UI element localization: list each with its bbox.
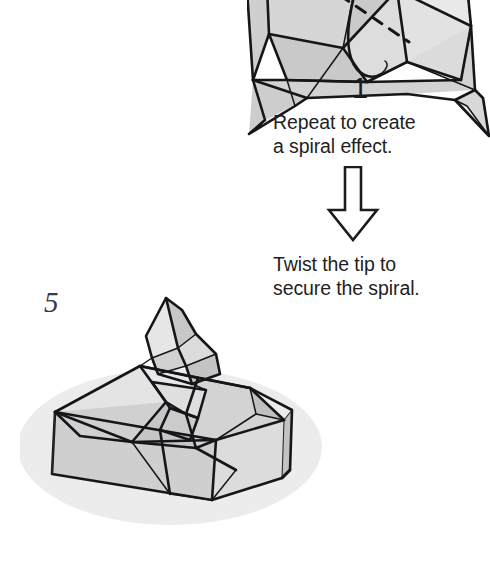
caption-repeat: Repeat to create a spiral effect. — [273, 110, 473, 158]
step-number-5: 5 — [44, 288, 59, 317]
origami-step-5-diagram — [20, 262, 340, 532]
step-number-1: 1 — [352, 74, 368, 103]
instruction-page: 1 Repeat to create a spiral effect. Twis… — [0, 0, 490, 572]
down-arrow-icon — [326, 166, 380, 242]
